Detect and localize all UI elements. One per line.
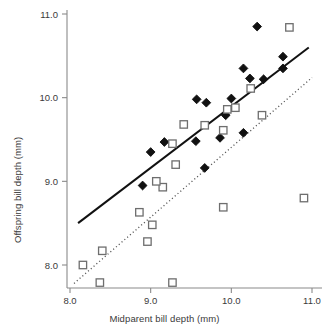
regression-lines bbox=[74, 47, 312, 283]
data-point-square bbox=[232, 104, 239, 111]
data-point-square bbox=[99, 247, 106, 254]
data-point-square bbox=[201, 122, 208, 129]
y-tick-label: 10.0 bbox=[40, 92, 59, 103]
x-tick-label: 8.0 bbox=[63, 295, 76, 306]
data-point-diamond bbox=[138, 181, 147, 190]
data-point-square bbox=[144, 238, 151, 245]
data-point-diamond bbox=[259, 75, 268, 84]
data-point-square bbox=[169, 140, 176, 147]
data-point-diamond bbox=[279, 52, 288, 61]
data-point-diamond bbox=[200, 164, 209, 173]
data-point-square bbox=[224, 106, 231, 113]
scatter-plot-figure: 8.09.010.011.08.09.010.011.0 Midparent b… bbox=[0, 0, 329, 326]
x-tick-label: 11.0 bbox=[303, 295, 321, 306]
data-point-square bbox=[247, 85, 254, 92]
y-tick-label: 9.0 bbox=[45, 176, 58, 187]
data-point-square bbox=[220, 204, 227, 211]
data-point-diamond bbox=[191, 137, 200, 146]
x-axis-title: Midparent bill depth (mm) bbox=[0, 313, 329, 324]
data-point-diamond bbox=[239, 128, 248, 137]
solid-regression-line bbox=[78, 47, 309, 223]
data-point-diamond bbox=[245, 74, 254, 83]
data-point-square bbox=[136, 209, 143, 216]
data-point-diamond bbox=[192, 95, 201, 104]
data-point-square bbox=[258, 112, 265, 119]
data-point-square bbox=[79, 261, 86, 268]
y-tick-label: 11.0 bbox=[40, 9, 58, 20]
data-point-diamond bbox=[202, 98, 211, 107]
data-point-diamond bbox=[227, 94, 236, 103]
data-point-diamond bbox=[216, 133, 225, 142]
plot-canvas: 8.09.010.011.08.09.010.011.0 bbox=[0, 0, 329, 326]
data-point-square bbox=[149, 221, 156, 228]
data-point-square bbox=[220, 127, 227, 134]
x-tick-label: 9.0 bbox=[144, 295, 157, 306]
data-point-square bbox=[153, 178, 160, 185]
data-point-diamond bbox=[160, 138, 169, 147]
data-points bbox=[79, 22, 307, 286]
y-axis-title: Offspring bill depth (mm) bbox=[12, 137, 23, 243]
data-point-square bbox=[172, 161, 179, 168]
data-point-square bbox=[169, 279, 176, 286]
dotted-regression-line bbox=[74, 78, 312, 284]
data-point-diamond bbox=[146, 148, 155, 157]
x-tick-label: 10.0 bbox=[222, 295, 241, 306]
y-tick-label: 8.0 bbox=[45, 260, 58, 271]
data-point-square bbox=[286, 24, 293, 31]
data-point-square bbox=[96, 279, 103, 286]
data-point-square bbox=[300, 194, 307, 201]
data-point-diamond bbox=[239, 64, 248, 73]
data-point-square bbox=[180, 121, 187, 128]
data-point-diamond bbox=[253, 22, 262, 31]
